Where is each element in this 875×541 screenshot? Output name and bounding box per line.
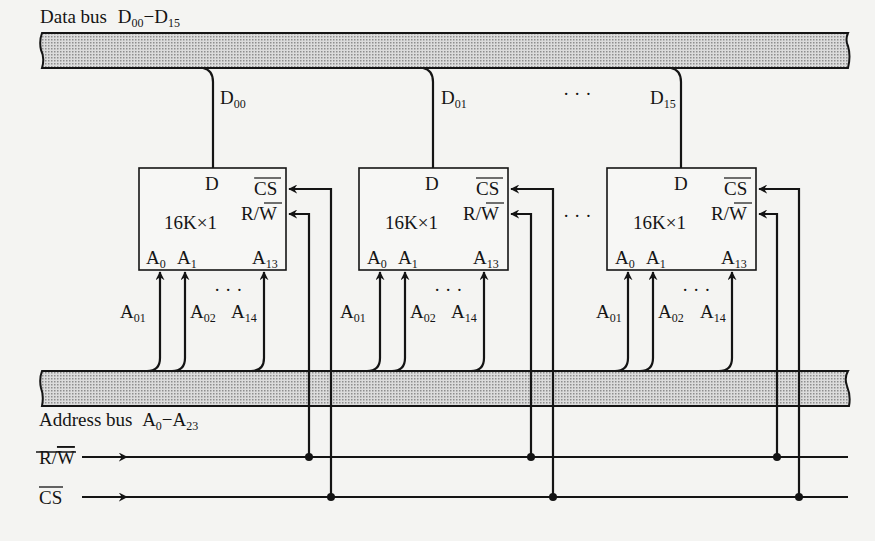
data-pin: D	[674, 173, 688, 194]
memory-chip-d00: D00 D CS R/W 16K×1 A0 A1 A13 · · · A01 A…	[120, 68, 335, 501]
chip-ellipsis: · · ·	[563, 205, 591, 226]
data-pin: D	[205, 173, 219, 194]
data-bus-label: Data bus D00−D15	[40, 6, 180, 30]
rw-pin: R/W	[463, 203, 499, 224]
ellipsis: · · ·	[682, 279, 710, 300]
addr-line-a02: A02	[658, 301, 684, 325]
addr-line-a01: A01	[120, 301, 146, 325]
data-line-label: D00	[220, 87, 246, 111]
chip-size-label: 16K×1	[633, 212, 686, 233]
address-bus: Address bus A0−A23	[39, 371, 850, 433]
addr-line-a01: A01	[340, 301, 366, 325]
data-ellipsis: · · ·	[563, 83, 591, 104]
memory-chip-d01: D01 D CS R/W 16K×1 A0 A1 A13 · · · A01 A…	[340, 68, 557, 501]
data-line-label: D15	[650, 87, 676, 111]
cs-line-label: CS	[39, 487, 62, 508]
data-pin: D	[425, 173, 439, 194]
ellipsis: · · ·	[214, 279, 242, 300]
address-bus-label: Address bus A0−A23	[39, 409, 198, 433]
data-bus-bar	[40, 33, 849, 68]
addr-line-a14: A14	[231, 301, 257, 325]
ellipsis: · · ·	[434, 279, 462, 300]
cs-pin: CS	[724, 178, 747, 199]
address-bus-bar	[40, 371, 849, 406]
addr-line-a02: A02	[410, 301, 436, 325]
rw-control-line: R/W	[36, 447, 848, 468]
rw-line-label: R/W	[39, 447, 75, 468]
cs-pin: CS	[476, 178, 499, 199]
addr-line-a14: A14	[700, 301, 726, 325]
data-bus: Data bus D00−D15	[40, 6, 850, 68]
addr-line-a14: A14	[451, 301, 477, 325]
rw-pin: R/W	[241, 203, 277, 224]
memory-organization-diagram: Data bus D00−D15 Address bus A0−A23 R/W …	[0, 0, 875, 541]
memory-chip-d15: D15 D CS R/W 16K×1 A0 A1 A13 · · · A01 A…	[596, 68, 803, 501]
addr-line-a02: A02	[190, 301, 216, 325]
rw-pin: R/W	[711, 203, 747, 224]
chip-size-label: 16K×1	[164, 212, 217, 233]
chip-size-label: 16K×1	[385, 212, 438, 233]
cs-pin: CS	[254, 178, 277, 199]
data-line-label: D01	[441, 87, 467, 111]
cs-control-line: CS	[39, 487, 848, 508]
addr-line-a01: A01	[596, 301, 622, 325]
